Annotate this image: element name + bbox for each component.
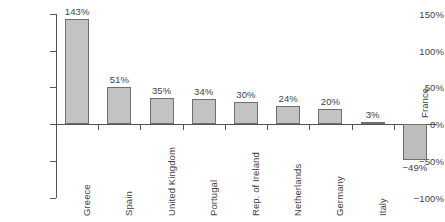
category-label: United Kingdom xyxy=(166,147,177,216)
bar-value-label: 51% xyxy=(89,74,149,85)
bar-value-label: 143% xyxy=(47,6,107,17)
x-tick-mark xyxy=(309,125,310,130)
bar xyxy=(107,87,131,124)
bar xyxy=(318,109,342,124)
bar xyxy=(361,122,385,124)
category-label: Spain xyxy=(123,191,134,216)
bar xyxy=(276,106,300,124)
y-tick-mark xyxy=(50,198,56,199)
bar-value-label: 20% xyxy=(300,96,360,107)
bar xyxy=(192,99,216,124)
category-label: Portugal xyxy=(208,180,219,216)
category-label: Netherlands xyxy=(292,164,303,216)
y-tick-mark xyxy=(50,51,56,52)
category-label: France xyxy=(419,88,430,118)
category-label: Italy xyxy=(377,198,388,216)
category-label: Germany xyxy=(334,176,345,216)
category-label: Greece xyxy=(81,184,92,216)
y-tick-mark xyxy=(50,161,56,162)
bar xyxy=(234,102,258,124)
category-label: Rep. of Ireland xyxy=(250,152,261,216)
y-tick-mark xyxy=(50,87,56,88)
y-tick-label: −100% xyxy=(398,193,444,204)
x-tick-mark xyxy=(140,125,141,130)
bar-value-label: −49% xyxy=(385,162,445,173)
x-tick-mark xyxy=(394,125,395,130)
x-tick-mark xyxy=(56,125,57,130)
bar xyxy=(65,19,89,124)
x-tick-mark xyxy=(225,125,226,130)
y-axis-line xyxy=(56,14,57,198)
x-axis-line xyxy=(56,124,436,125)
y-tick-label: 150% xyxy=(398,9,444,20)
x-tick-mark xyxy=(183,125,184,130)
bar xyxy=(150,98,174,124)
bar xyxy=(403,124,427,160)
y-tick-label: 100% xyxy=(398,45,444,56)
x-tick-mark xyxy=(352,125,353,130)
x-tick-mark xyxy=(267,125,268,130)
bar-value-label: 3% xyxy=(343,109,403,120)
x-tick-mark xyxy=(98,125,99,130)
